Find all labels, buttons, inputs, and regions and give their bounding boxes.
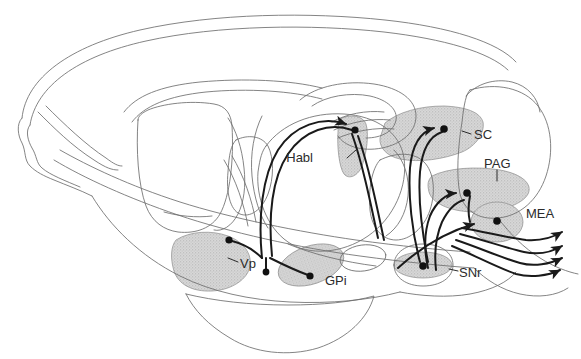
bouton-snr-origin <box>419 262 427 270</box>
bouton-gpi <box>306 272 313 279</box>
bouton-vp <box>225 236 232 243</box>
sagittal-brain-diagram: Habl SC PAG MEA SNr Vp GPi <box>0 0 581 359</box>
label-mea: MEA <box>526 206 555 221</box>
bouton-mea <box>493 217 501 225</box>
brain-schematic-figure: Habl SC PAG MEA SNr Vp GPi <box>0 0 581 359</box>
bouton-habl <box>351 126 358 133</box>
label-sc: SC <box>474 127 492 142</box>
label-snr: SNr <box>459 265 482 280</box>
bouton-sc <box>440 125 448 133</box>
bouton-mid <box>263 269 270 276</box>
bouton-pag <box>463 189 471 197</box>
label-vp: Vp <box>240 256 256 271</box>
label-habl: Habl <box>286 150 313 165</box>
label-gpi: GPi <box>325 273 347 288</box>
label-pag: PAG <box>484 156 511 171</box>
